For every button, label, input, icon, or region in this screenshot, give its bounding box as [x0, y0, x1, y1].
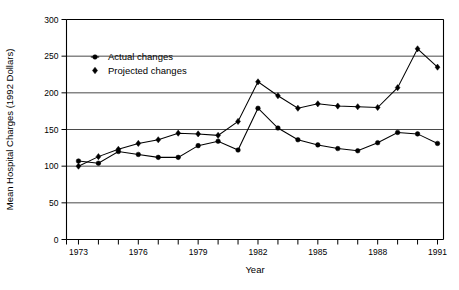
x-tick-label: 1973 [69, 247, 88, 257]
data-point-diamond [295, 105, 300, 111]
data-point-diamond [355, 104, 360, 110]
data-point-circle [395, 130, 400, 135]
data-point-circle [76, 159, 81, 164]
x-tick-label: 1979 [189, 247, 208, 257]
data-point-circle [296, 137, 301, 142]
y-tick-label: 50 [49, 198, 59, 208]
data-point-circle [335, 146, 340, 151]
series-1 [76, 106, 440, 166]
data-point-diamond [156, 137, 161, 143]
data-point-circle [316, 143, 321, 148]
data-point-diamond [256, 79, 261, 85]
x-tick-label: 1985 [308, 247, 327, 257]
data-point-diamond [335, 103, 340, 109]
legend-item-2: Projected changes [92, 65, 186, 76]
y-tick-label: 300 [44, 15, 58, 25]
legend-label: Actual changes [108, 51, 173, 62]
data-point-circle [136, 152, 141, 157]
chart-legend: Actual changesProjected changes [91, 51, 187, 76]
x-tick-label: 1976 [129, 247, 148, 257]
data-point-circle [156, 155, 161, 160]
data-point-circle [236, 148, 241, 153]
y-tick-label: 250 [44, 51, 58, 61]
y-tick-label: 100 [44, 161, 58, 171]
data-point-circle [375, 140, 380, 145]
y-tick-label: 150 [44, 125, 58, 135]
data-point-circle [435, 141, 440, 146]
data-point-circle [276, 126, 281, 131]
x-tick-label: 1991 [428, 247, 447, 257]
data-point-circle [176, 155, 181, 160]
y-axis-ticks-group: 050100150200250300 [44, 15, 66, 245]
data-point-circle [415, 132, 420, 137]
data-point-diamond [96, 154, 101, 160]
x-tick-label: 1988 [368, 247, 387, 257]
gridlines-group [67, 20, 444, 203]
data-point-diamond [176, 130, 181, 136]
data-point-diamond [136, 140, 141, 146]
data-point-diamond [276, 93, 281, 99]
data-point-diamond [236, 118, 241, 124]
x-axis-title: Year [245, 264, 264, 275]
data-point-circle [256, 106, 261, 111]
data-point-diamond [76, 163, 81, 169]
data-point-circle [96, 161, 101, 166]
x-axis-ticks-group: 1973197619791982198519881991 [67, 240, 448, 257]
series-line-path [78, 108, 437, 163]
data-point-diamond [216, 132, 221, 138]
chart-figure: 050100150200250300 197319761979198219851… [0, 0, 459, 290]
data-point-diamond [315, 101, 320, 107]
figure-caption [0, 282, 459, 290]
y-axis-title: Mean Hospital Charges (1992 Dollars) [4, 49, 15, 211]
data-point-circle [216, 139, 221, 144]
legend-label: Projected changes [108, 65, 187, 76]
data-point-diamond [92, 67, 97, 74]
data-point-circle [196, 143, 201, 148]
line-chart: 050100150200250300 197319761979198219851… [0, 0, 459, 290]
y-tick-label: 0 [54, 235, 59, 245]
y-tick-label: 200 [44, 88, 58, 98]
data-point-diamond [196, 131, 201, 137]
x-tick-label: 1982 [249, 247, 268, 257]
data-point-circle [355, 148, 360, 153]
